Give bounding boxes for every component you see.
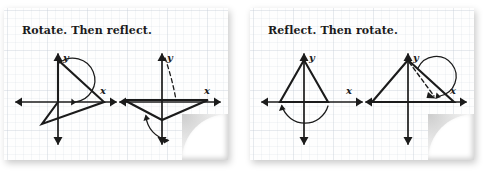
caption-rotate-then-reflect: Rotate. Then reflect. [22, 24, 152, 37]
triangle-shape [124, 100, 208, 120]
worksheet-stage: Rotate. Then reflect. [0, 0, 483, 178]
y-axis-label: y [62, 52, 70, 63]
x-axis-label: x [99, 85, 107, 96]
y-axis-label: y [166, 52, 174, 63]
reflection-dashed-line [165, 58, 176, 100]
rotate-step-1-diagram: y x [12, 44, 124, 148]
card-reflect-then-rotate: Reflect. Then rotate. [250, 8, 474, 160]
y-axis-label: y [308, 52, 316, 63]
rotate-step-2-diagram: y x [116, 44, 228, 148]
y-axis-label: y [412, 52, 420, 63]
x-axis-label: x [203, 85, 211, 96]
card-rotate-then-reflect: Rotate. Then reflect. [4, 8, 228, 160]
caption-reflect-then-rotate: Reflect. Then rotate. [268, 24, 398, 37]
x-axis-label: x [345, 85, 353, 96]
x-axis-label: x [449, 85, 457, 96]
y-axis [404, 53, 413, 145]
rotation-dashed-arrow [409, 62, 436, 99]
reflect-step-2-diagram: y x [362, 44, 474, 148]
triangle-shape [42, 60, 104, 124]
reflect-step-1-diagram: y x [258, 44, 370, 148]
